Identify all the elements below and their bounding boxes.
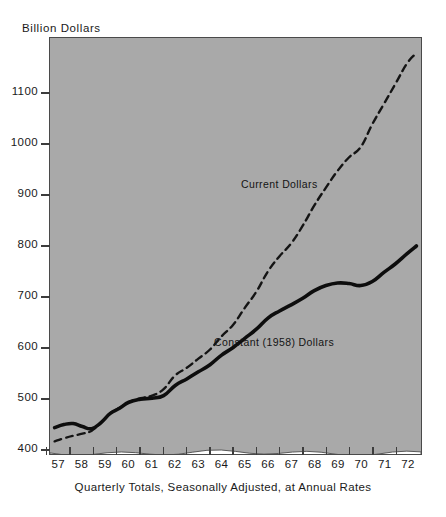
x-axis-tick-label: 61: [139, 458, 165, 470]
chart-caption: Quarterly Totals, Seasonally Adjusted, a…: [0, 481, 446, 493]
plot-canvas: [50, 38, 421, 454]
axis-break-band: [50, 450, 421, 454]
x-axis-tick-label: 69: [325, 458, 351, 470]
x-axis-tick: [256, 447, 257, 455]
y-axis-tick-label: 1100: [0, 85, 38, 97]
chart-figure: Billion Dollars 400500600700800900100011…: [0, 0, 446, 517]
y-axis-tick-label: 800: [0, 238, 38, 250]
series-label-current-dollars: Current Dollars: [241, 178, 318, 190]
y-axis-tick-label: 1000: [0, 136, 38, 148]
x-axis-tick: [186, 447, 187, 455]
y-axis-tick-label: 700: [0, 289, 38, 301]
y-axis-tick: [41, 143, 50, 144]
x-axis-tick: [349, 447, 350, 455]
x-axis-tick: [69, 447, 70, 455]
y-axis-tick: [41, 92, 50, 93]
x-axis-tick: [372, 447, 373, 455]
x-axis-tick-label: 71: [372, 458, 398, 470]
x-axis-tick-label: 72: [395, 458, 421, 470]
x-axis-tick: [139, 447, 140, 455]
y-axis-tick-label: 400: [0, 442, 38, 454]
x-axis-tick-label: 68: [302, 458, 328, 470]
x-axis-tick: [163, 447, 164, 455]
x-axis-tick-label: 65: [232, 458, 258, 470]
x-axis-tick-label: 67: [278, 458, 304, 470]
series-label-constant-dollars: Constant (1958) Dollars: [214, 336, 334, 348]
y-axis-tick: [41, 398, 50, 399]
x-axis-tick: [396, 447, 397, 455]
x-axis-tick-label: 64: [209, 458, 235, 470]
x-axis-tick-label: 63: [185, 458, 211, 470]
x-axis-tick: [232, 447, 233, 455]
x-axis-tick-label: 58: [69, 458, 95, 470]
x-axis-tick: [279, 447, 280, 455]
x-axis-tick-label: 57: [45, 458, 71, 470]
x-axis-tick: [302, 447, 303, 455]
y-axis-title: Billion Dollars: [22, 22, 101, 34]
y-axis-tick-label: 900: [0, 187, 38, 199]
x-axis-tick-label: 70: [348, 458, 374, 470]
y-axis-tick-label: 600: [0, 340, 38, 352]
x-axis-tick: [326, 447, 327, 455]
y-axis-tick: [41, 245, 50, 246]
y-axis-tick: [41, 194, 50, 195]
x-axis-tick: [116, 447, 117, 455]
plot-area: [49, 37, 422, 455]
x-axis-tick: [46, 447, 47, 455]
y-axis-tick: [41, 296, 50, 297]
y-axis-tick-label: 500: [0, 391, 38, 403]
x-axis-tick: [209, 447, 210, 455]
x-axis-tick-label: 62: [162, 458, 188, 470]
x-axis-tick-label: 59: [92, 458, 118, 470]
x-axis-tick-label: 66: [255, 458, 281, 470]
y-axis-tick: [41, 347, 50, 348]
series-line-current-dollars: [55, 53, 417, 441]
x-axis-tick-label: 60: [115, 458, 141, 470]
x-axis-tick: [93, 447, 94, 455]
